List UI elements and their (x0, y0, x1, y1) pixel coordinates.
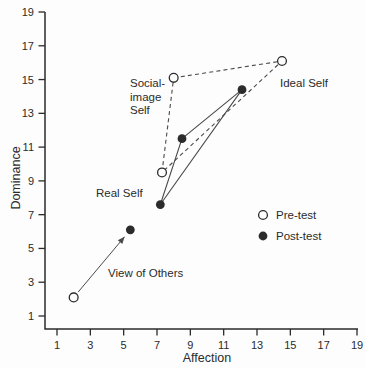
pre-test-point-view-of-others (69, 293, 78, 302)
x-tick-label-5: 5 (121, 339, 127, 351)
y-tick-label-7: 7 (28, 209, 34, 221)
y-tick-label-15: 15 (22, 74, 34, 86)
axes-frame (45, 12, 358, 329)
x-tick-label-7: 7 (154, 339, 160, 351)
y-axis-title: Dominance (9, 146, 23, 209)
y-tick-label-3: 3 (28, 276, 34, 288)
x-tick-label-13: 13 (251, 339, 263, 351)
x-tick-label-9: 9 (187, 339, 193, 351)
social-image-self-label: Social- (130, 77, 165, 89)
post-test-point-ideal-self (238, 85, 247, 94)
scatter-chart: 135791113151719135791113151719AffectionD… (0, 0, 365, 368)
ideal-self-label: Ideal Self (280, 77, 329, 89)
post-test-point-view-of-others (126, 225, 135, 234)
y-tick-label-5: 5 (28, 242, 34, 254)
pre-test-point-real-self (158, 168, 167, 177)
x-tick-label-1: 1 (54, 339, 60, 351)
y-tick-label-19: 19 (22, 6, 34, 18)
y-tick-label-17: 17 (22, 40, 34, 52)
social-image-self-label: Self (130, 104, 151, 116)
x-tick-label-3: 3 (87, 339, 93, 351)
x-tick-label-19: 19 (351, 339, 363, 351)
y-tick-label-13: 13 (22, 107, 34, 119)
post-test-connector-lines (160, 90, 242, 205)
view-of-others-label: View of Others (108, 267, 183, 279)
figure-canvas: 135791113151719135791113151719AffectionD… (0, 0, 365, 368)
y-tick-label-1: 1 (28, 310, 34, 322)
x-tick-label-15: 15 (284, 339, 296, 351)
legend-label-pre-test: Pre-test (276, 209, 317, 221)
pre-test-connector-lines (162, 61, 282, 172)
x-tick-label-11: 11 (218, 339, 229, 351)
x-axis-title: Affection (183, 351, 231, 365)
legend-marker-post-test (259, 232, 268, 241)
pre-test-point-ideal-self (278, 57, 287, 66)
legend-label-post-test: Post-test (276, 230, 322, 242)
view-of-others-arrow-shaft (78, 237, 124, 292)
x-tick-label-17: 17 (318, 339, 330, 351)
social-image-self-label: image (130, 91, 161, 103)
legend-marker-pre-test (259, 211, 268, 220)
real-self-label: Real Self (96, 187, 143, 199)
pre-test-point-social-image-self (169, 73, 178, 82)
post-test-point-real-self (156, 200, 165, 209)
y-tick-label-11: 11 (23, 141, 34, 153)
y-tick-label-9: 9 (28, 175, 34, 187)
post-test-point-social-image-self (178, 134, 187, 143)
